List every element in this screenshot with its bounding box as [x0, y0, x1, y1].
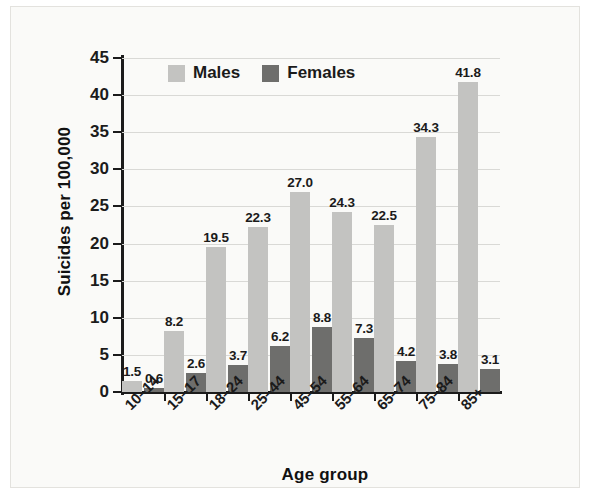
bar-value-label: 2.6: [187, 356, 205, 371]
bar-value-label: 34.3: [413, 120, 438, 135]
bar-value-label: 3.1: [481, 352, 499, 367]
bar-value-label: 27.0: [287, 175, 312, 190]
x-axis-title: Age group: [11, 465, 579, 485]
bar-females-8[interactable]: 3.1: [480, 369, 500, 392]
bar-males-8[interactable]: 41.8: [458, 82, 478, 392]
y-tick-mark: [113, 243, 122, 245]
bar-value-label: 22.3: [245, 210, 270, 225]
y-tick-mark: [113, 57, 122, 59]
y-tick-label: 40: [90, 85, 109, 105]
y-tick-label: 30: [90, 159, 109, 179]
bar-males-5[interactable]: 24.3: [332, 212, 352, 392]
gridline: [122, 206, 500, 207]
y-tick-label: 15: [90, 271, 109, 291]
bar-value-label: 41.8: [455, 65, 480, 80]
gridline: [122, 244, 500, 245]
figure-card: Males Females Suicides per 100,000 05101…: [10, 6, 580, 488]
y-tick-label: 25: [90, 196, 109, 216]
y-tick-mark: [113, 168, 122, 170]
plot-area: 0510152025303540451.50.68.22.619.53.722.…: [122, 58, 500, 392]
bar-value-label: 4.2: [397, 344, 415, 359]
y-tick-label: 35: [90, 122, 109, 142]
bar-value-label: 7.3: [355, 321, 373, 336]
y-tick-mark: [113, 280, 122, 282]
bar-value-label: 3.7: [229, 348, 247, 363]
y-tick-label: 20: [90, 234, 109, 254]
y-tick-label: 10: [90, 308, 109, 328]
bar-value-label: 19.5: [203, 230, 228, 245]
bar-males-3[interactable]: 22.3: [248, 227, 268, 393]
y-tick-mark: [113, 391, 122, 393]
bar-value-label: 8.2: [165, 314, 183, 329]
bar-value-label: 22.5: [371, 208, 396, 223]
bar-males-2[interactable]: 19.5: [206, 247, 226, 392]
bar-males-4[interactable]: 27.0: [290, 192, 310, 392]
y-tick-label: 45: [90, 48, 109, 68]
chart-page: Males Females Suicides per 100,000 05101…: [0, 0, 601, 504]
gridline: [122, 58, 500, 59]
y-tick-mark: [113, 131, 122, 133]
bar-value-label: 8.8: [313, 310, 331, 325]
y-tick-mark: [113, 354, 122, 356]
y-tick-label: 5: [100, 345, 109, 365]
bar-value-label: 3.8: [439, 347, 457, 362]
gridline: [122, 132, 500, 133]
bar-males-6[interactable]: 22.5: [374, 225, 394, 392]
bar-value-label: 1.5: [123, 364, 141, 379]
bar-males-7[interactable]: 34.3: [416, 137, 436, 392]
y-axis-title: Suicides per 100,000: [55, 127, 81, 296]
bar-value-label: 6.2: [271, 329, 289, 344]
y-tick-mark: [113, 205, 122, 207]
bar-value-label: 24.3: [329, 195, 354, 210]
y-tick-mark: [113, 94, 122, 96]
gridline: [122, 281, 500, 282]
y-tick-label: 0: [100, 382, 109, 402]
gridline: [122, 95, 500, 96]
y-tick-mark: [113, 317, 122, 319]
gridline: [122, 169, 500, 170]
